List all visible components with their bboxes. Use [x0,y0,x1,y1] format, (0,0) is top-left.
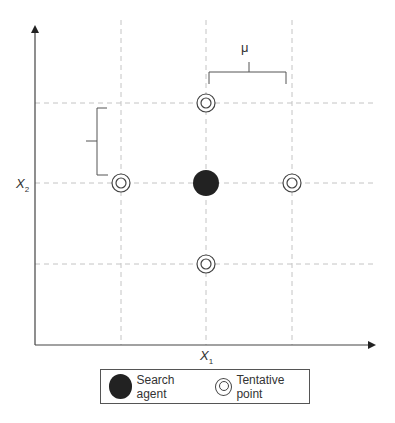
tentative-point-legend-label: Tentative point [236,373,309,401]
y-axis-arrow-icon [31,25,39,33]
diagram-canvas [0,0,395,423]
vertical-brace-icon [86,108,108,175]
horizontal-brace-icon [209,62,286,84]
search-agent-point [193,170,219,196]
x-axis-label: X1 [200,348,213,366]
legend: Search agent Tentative point [100,369,310,404]
tentative-point-legend-icon [215,378,232,396]
x-axis-arrow-icon [368,341,376,349]
search-agent-legend-label: Search agent [136,373,203,401]
step-size-label: μ [241,40,249,55]
search-agent-legend-icon [109,374,132,399]
y-axis-label: X2 [16,176,29,194]
